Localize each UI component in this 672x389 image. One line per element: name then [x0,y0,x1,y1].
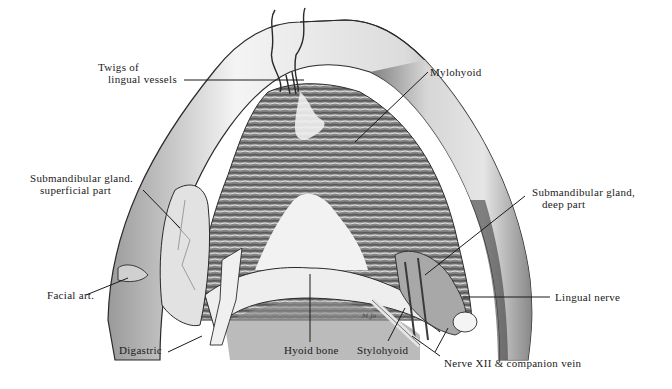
label-submandibular-deep: Submandibular gland, deep part [532,186,635,210]
label-submandibular-superficial: Submandibular gland. superficial part [30,172,133,196]
label-twigs-lingual-vessels: Twigs of lingual vessels [98,61,177,85]
label-stylohyoid: Stylohyoid [357,344,408,356]
label-digastric: Digastric [119,344,162,356]
label-facial-artery: Facial art. [47,289,94,301]
label-hyoid-bone: Hyoid bone [284,344,339,356]
label-nerve-xii: Nerve XII & companion vein [444,357,581,369]
artist-signature: M Jo [361,312,376,320]
label-mylohyoid: Mylohyoid [430,66,482,78]
label-lingual-nerve: Lingual nerve [555,291,620,303]
anatomy-figure: M Jo Twigs of lingual vessels Mylohyoid … [0,0,672,389]
